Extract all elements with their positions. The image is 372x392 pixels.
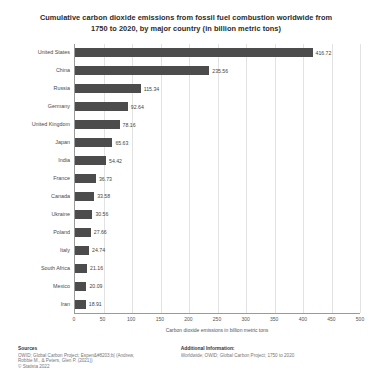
bar-row[interactable]: 92.64 — [75, 98, 360, 116]
x-axis-tick-label: 400 — [299, 316, 307, 322]
x-axis-tick-label: 200 — [184, 316, 192, 322]
bar-value-label: 36.73 — [99, 176, 112, 182]
category-label: Germany — [12, 98, 74, 116]
additional-info-block: Additional Information: Worldwide; OWID;… — [181, 346, 354, 370]
x-axis-tick-label: 350 — [270, 316, 278, 322]
x-axis-tick-label: 250 — [213, 316, 221, 322]
sources-block: Sources OWID; Global Carbon Project; Esp… — [18, 346, 169, 370]
bar-value-label: 92.64 — [131, 104, 144, 110]
bar-row[interactable]: 20.09 — [75, 277, 360, 295]
chart-title: Cumulative carbon dioxide emissions from… — [0, 0, 372, 34]
category-label: Ukraine — [12, 205, 74, 223]
category-label: Japan — [12, 134, 74, 152]
category-label: France — [12, 170, 74, 188]
bar-value-label: 21.16 — [90, 265, 103, 271]
x-axis-tick-label: 0 — [73, 316, 76, 322]
category-label: India — [12, 152, 74, 170]
category-label: United States — [12, 44, 74, 62]
gridline — [360, 44, 361, 313]
bar-value-label: 416.72 — [316, 50, 332, 56]
bar-row[interactable]: 78.16 — [75, 116, 360, 134]
category-label: China — [12, 62, 74, 80]
category-label: Italy — [12, 241, 74, 259]
bar[interactable] — [75, 210, 92, 219]
sources-line: © Statista 2022 — [18, 364, 169, 370]
bar[interactable] — [75, 282, 86, 291]
bar-row[interactable]: 416.72 — [75, 44, 360, 62]
bar-value-label: 115.34 — [144, 86, 159, 92]
bar-row[interactable]: 18.91 — [75, 295, 360, 313]
bar-row[interactable]: 36.73 — [75, 170, 360, 188]
category-label: South Africa — [12, 259, 74, 277]
x-axis-tick-label: 500 — [356, 316, 364, 322]
bar-value-label: 27.66 — [94, 229, 107, 235]
bar[interactable] — [75, 156, 106, 165]
bar[interactable] — [75, 300, 86, 309]
bar-value-label: 33.58 — [97, 193, 110, 199]
bar[interactable] — [75, 264, 87, 273]
x-axis-tick-label: 50 — [100, 316, 106, 322]
bar[interactable] — [75, 138, 112, 147]
bar-row[interactable]: 115.34 — [75, 80, 360, 98]
additional-info-heading: Additional Information: — [181, 346, 354, 351]
bar-row[interactable]: 235.56 — [75, 62, 360, 80]
category-label: Iran — [12, 295, 74, 313]
bar-row[interactable]: 54.42 — [75, 152, 360, 170]
bar-row[interactable]: 33.58 — [75, 188, 360, 206]
bar-row[interactable]: 65.63 — [75, 134, 360, 152]
bar[interactable] — [75, 174, 96, 183]
category-label: United Kingdom — [12, 116, 74, 134]
category-label: Canada — [12, 188, 74, 206]
bar[interactable] — [75, 48, 313, 57]
bar[interactable] — [75, 246, 89, 255]
bar-value-label: 30.56 — [95, 211, 108, 217]
category-label: Mexico — [12, 277, 74, 295]
bar-value-label: 18.91 — [89, 301, 102, 307]
plot-area: United States China Russia Germany Unite… — [12, 44, 360, 327]
bar-value-label: 78.16 — [123, 122, 136, 128]
category-axis-labels: United States China Russia Germany Unite… — [12, 44, 74, 313]
bar-value-label: 65.63 — [115, 140, 128, 146]
bar[interactable] — [75, 120, 120, 129]
bar[interactable] — [75, 192, 94, 201]
category-label: Russia — [12, 80, 74, 98]
bar[interactable] — [75, 228, 91, 237]
x-axis-title: Carbon dioxide emissions in billion metr… — [74, 327, 360, 333]
chart-title-line-2: 1750 to 2020, by major country (in billi… — [24, 23, 348, 34]
x-axis-tick-label: 450 — [327, 316, 335, 322]
bar-row[interactable]: 21.16 — [75, 259, 360, 277]
bar-row[interactable]: 24.74 — [75, 241, 360, 259]
bars-area: 416.72235.56115.3492.6478.1665.6354.4236… — [74, 44, 360, 313]
additional-info-line: Worldwide; OWID; Global Carbon Project; … — [181, 353, 354, 359]
bar[interactable] — [75, 84, 141, 93]
chart-container: Cumulative carbon dioxide emissions from… — [0, 0, 372, 392]
x-axis-tick-label: 100 — [127, 316, 135, 322]
bar[interactable] — [75, 66, 209, 75]
x-axis-tick-label: 300 — [241, 316, 249, 322]
bar-rows: 416.72235.56115.3492.6478.1665.6354.4236… — [75, 44, 360, 313]
bar-row[interactable]: 27.66 — [75, 223, 360, 241]
bar[interactable] — [75, 102, 128, 111]
chart-title-line-1: Cumulative carbon dioxide emissions from… — [24, 12, 348, 23]
bar-value-label: 24.74 — [92, 247, 105, 253]
category-label: Poland — [12, 223, 74, 241]
x-axis: 050100150200250300350400450500 — [74, 313, 360, 328]
bar-value-label: 20.09 — [89, 283, 102, 289]
bar-value-label: 235.56 — [212, 68, 228, 74]
footer: Sources OWID; Global Carbon Project; Esp… — [0, 346, 372, 370]
x-axis-tick-label: 150 — [156, 316, 164, 322]
bar-value-label: 54.42 — [109, 158, 122, 164]
bar-row[interactable]: 30.56 — [75, 205, 360, 223]
sources-heading: Sources — [18, 346, 169, 351]
